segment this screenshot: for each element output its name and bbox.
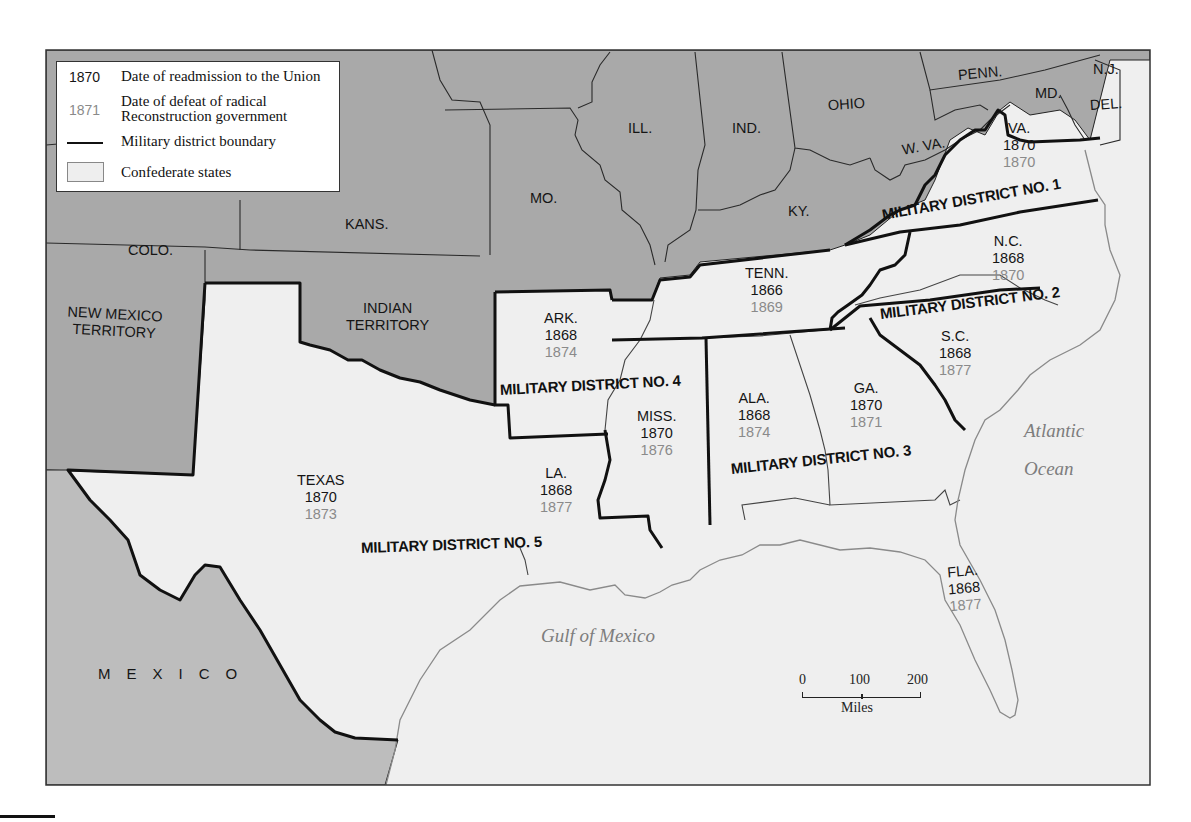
defeated-year: 1869: [745, 299, 789, 316]
label-mo: MO.: [530, 190, 557, 207]
label-new-mexico-territory: NEW MEXICO TERRITORY: [66, 304, 163, 343]
state-label-nc: N.C. 1868 1870: [992, 233, 1024, 284]
legend-boundary-line-icon: [67, 142, 103, 144]
defeated-year: 1870: [992, 267, 1024, 284]
label-ill: ILL.: [628, 120, 652, 137]
legend-boundary-text: Military district boundary: [121, 134, 276, 149]
label-indian-territory: INDIAN TERRITORY: [346, 300, 429, 334]
legend-readmission-text: Date of readmission to the Union: [121, 69, 321, 84]
state-label-ga: GA. 1870 1871: [850, 380, 882, 431]
atlantic-ocean-label-line2: Ocean: [1024, 458, 1074, 480]
readmitted-year: 1868: [738, 407, 770, 424]
scale-unit: Miles: [841, 700, 873, 716]
defeated-year: 1871: [850, 414, 882, 431]
gulf-of-mexico-label: Gulf of Mexico: [541, 625, 655, 647]
readmitted-year: 1870: [1003, 137, 1035, 154]
state-label-ark: ARK. 1868 1874: [544, 310, 578, 361]
state-name: MISS.: [637, 408, 676, 425]
state-name: LA.: [540, 465, 572, 482]
state-name: N.C.: [992, 233, 1024, 250]
label-ind: IND.: [732, 120, 761, 137]
scale-bar: 0 100 200 Miles: [797, 672, 937, 722]
readmitted-year: 1870: [850, 397, 882, 414]
state-label-la: LA. 1868 1877: [540, 465, 572, 516]
map-legend: 1870 Date of readmission to the Union 18…: [56, 61, 340, 192]
readmitted-year: 1868: [992, 250, 1024, 267]
defeated-year: 1874: [738, 424, 770, 441]
label-ky: KY.: [788, 203, 810, 220]
legend-defeat-key: 1871: [69, 102, 100, 118]
scale-tick-100: 100: [849, 672, 870, 688]
state-label-tenn: TENN. 1866 1869: [745, 265, 789, 316]
state-name: S.C.: [939, 328, 971, 345]
indian-line1: INDIAN: [346, 300, 429, 317]
legend-readmission-key: 1870: [69, 69, 100, 85]
readmitted-year: 1868: [939, 345, 971, 362]
state-name: TEXAS: [297, 472, 345, 489]
state-name: TENN.: [745, 265, 789, 282]
label-del: DEL.: [1089, 95, 1122, 114]
atlantic-ocean-label-line1: Atlantic: [1024, 420, 1084, 442]
defeated-year: 1877: [949, 596, 983, 616]
label-nj: N.J.: [1093, 61, 1119, 78]
legend-defeat-text-line1: Date of defeat of radical: [121, 94, 267, 109]
scale-tick-200: 200: [907, 672, 928, 688]
defeated-year: 1877: [939, 362, 971, 379]
label-md: MD.: [1035, 85, 1062, 102]
label-ohio: OHIO: [827, 95, 865, 115]
defeated-year: 1870: [1003, 154, 1035, 171]
scale-tick-0: 0: [799, 672, 806, 688]
label-kans: KANS.: [345, 216, 389, 233]
readmitted-year: 1866: [745, 282, 789, 299]
state-label-ala: ALA. 1868 1874: [738, 390, 770, 441]
state-name: GA.: [850, 380, 882, 397]
readmitted-year: 1870: [637, 425, 676, 442]
state-label-texas: TEXAS 1870 1873: [297, 472, 345, 523]
state-name: VA.: [1003, 120, 1035, 137]
defeated-year: 1877: [540, 499, 572, 516]
state-label-sc: S.C. 1868 1877: [939, 328, 971, 379]
indian-line2: TERRITORY: [346, 317, 429, 334]
readmitted-year: 1870: [297, 489, 345, 506]
defeated-year: 1874: [544, 344, 578, 361]
scale-bar-mid-tick: [861, 694, 863, 699]
legend-defeat-text-line2: Reconstruction government: [121, 109, 287, 124]
state-name: ARK.: [544, 310, 578, 327]
legend-confederate-swatch-icon: [67, 162, 104, 182]
label-mexico: MEXICO: [98, 665, 253, 682]
readmitted-year: 1868: [540, 482, 572, 499]
corner-rule-line: [0, 815, 55, 818]
label-colo: COLO.: [128, 242, 173, 259]
state-name: ALA.: [738, 390, 770, 407]
readmitted-year: 1868: [544, 327, 578, 344]
state-label-va: VA. 1870 1870: [1003, 120, 1035, 171]
legend-confederate-text: Confederate states: [121, 165, 231, 180]
defeated-year: 1873: [297, 506, 345, 523]
state-label-miss: MISS. 1870 1876: [637, 408, 676, 459]
state-label-fla: FLA. 1868 1877: [946, 562, 983, 616]
defeated-year: 1876: [637, 442, 676, 459]
